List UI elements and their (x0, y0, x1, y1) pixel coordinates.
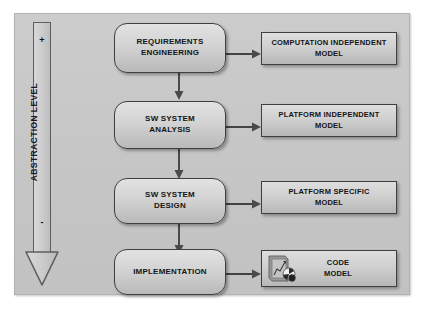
image-thumbnail-icon (266, 254, 298, 284)
process-label-line1: SW SYSTEM (145, 190, 195, 199)
model-label-line2: MODEL (324, 269, 352, 278)
model-box-label: PLATFORM SPECIFIC MODEL (288, 187, 369, 208)
model-label-line2: MODEL (315, 198, 343, 207)
model-label-line1: CODE (327, 258, 349, 267)
abstraction-level-label: ABSTRACTION LEVEL (29, 66, 39, 198)
process-label-line1: SW SYSTEM (145, 114, 195, 123)
model-box-label: PLATFORM INDEPENDENT MODEL (279, 110, 380, 131)
process-label-line1: REQUIREMENTS (137, 37, 204, 46)
model-label-line2: MODEL (315, 121, 343, 130)
process-label-line2: ENGINEERING (141, 48, 199, 57)
connector-analysis-to-pim (226, 120, 263, 134)
process-box-requirements-engineering[interactable]: REQUIREMENTS ENGINEERING (114, 23, 226, 73)
connector-requirements-to-cim (226, 47, 263, 61)
process-box-sw-system-design[interactable]: SW SYSTEM DESIGN (114, 178, 226, 224)
connector-requirements-to-analysis (169, 72, 189, 102)
process-box-label: IMPLEMENTATION (128, 267, 212, 278)
abstraction-axis-plus-sign: + (33, 36, 51, 45)
connector-analysis-to-design (169, 149, 189, 181)
model-box-platform-independent-model[interactable]: PLATFORM INDEPENDENT MODEL (261, 104, 397, 137)
process-box-label: REQUIREMENTS ENGINEERING (132, 37, 209, 59)
diagram-panel: + - ABSTRACTION LEVEL (14, 13, 410, 295)
model-label-line2: MODEL (315, 49, 343, 58)
process-box-sw-system-analysis[interactable]: SW SYSTEM ANALYSIS (114, 101, 226, 149)
connector-implementation-to-code-model (226, 267, 263, 281)
abstraction-axis-minus-sign: - (33, 218, 51, 227)
abstraction-level-axis: + - ABSTRACTION LEVEL (25, 22, 59, 288)
model-label-line1: COMPUTATION INDEPENDENT (271, 38, 386, 47)
process-box-label: SW SYSTEM ANALYSIS (140, 114, 200, 136)
model-label-line1: PLATFORM INDEPENDENT (279, 110, 380, 119)
model-label-line1: PLATFORM SPECIFIC (288, 187, 369, 196)
model-box-label: CODE MODEL (298, 258, 396, 279)
process-box-implementation[interactable]: IMPLEMENTATION (114, 249, 226, 295)
process-label-line1: IMPLEMENTATION (133, 267, 207, 276)
process-label-line2: ANALYSIS (149, 125, 190, 134)
model-box-label: COMPUTATION INDEPENDENT MODEL (271, 38, 386, 59)
connector-design-to-psm (226, 197, 263, 211)
process-label-line2: DESIGN (154, 201, 186, 210)
abstraction-axis-arrowhead-icon (25, 251, 59, 287)
process-box-label: SW SYSTEM DESIGN (140, 190, 200, 212)
model-box-code-model[interactable]: CODE MODEL (261, 250, 397, 287)
model-box-computation-independent-model[interactable]: COMPUTATION INDEPENDENT MODEL (261, 32, 397, 65)
model-box-platform-specific-model[interactable]: PLATFORM SPECIFIC MODEL (261, 181, 397, 214)
